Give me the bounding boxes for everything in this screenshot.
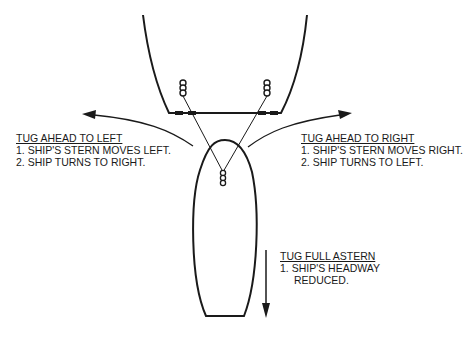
label-title: TUG AHEAD TO LEFT xyxy=(16,132,171,144)
straight-arrow-down-icon xyxy=(262,250,270,318)
label-tug-ahead-left: TUG AHEAD TO LEFT 1. SHIP'S STERN MOVES … xyxy=(16,132,171,168)
label-title: TUG AHEAD TO RIGHT xyxy=(301,132,463,144)
ship-bitt-right xyxy=(264,80,270,96)
label-line: REDUCED. xyxy=(280,274,380,286)
label-tug-full-astern: TUG FULL ASTERN 1. SHIP'S HEADWAY REDUCE… xyxy=(280,250,380,286)
ship-bitt-left xyxy=(180,80,186,96)
ship-stern xyxy=(143,15,307,115)
towlines xyxy=(183,96,267,172)
tug-bitt xyxy=(220,170,225,185)
tug-hull xyxy=(193,140,257,316)
label-tug-ahead-right: TUG AHEAD TO RIGHT 1. SHIP'S STERN MOVES… xyxy=(301,132,463,168)
label-line: 1. SHIP'S STERN MOVES LEFT. xyxy=(16,144,171,156)
label-line: 1. SHIP'S STERN MOVES RIGHT. xyxy=(301,144,463,156)
label-title: TUG FULL ASTERN xyxy=(280,250,380,262)
label-line: 1. SHIP'S HEADWAY xyxy=(280,262,380,274)
label-line: 2. SHIP TURNS TO LEFT. xyxy=(301,156,463,168)
label-line: 2. SHIP TURNS TO RIGHT. xyxy=(16,156,171,168)
